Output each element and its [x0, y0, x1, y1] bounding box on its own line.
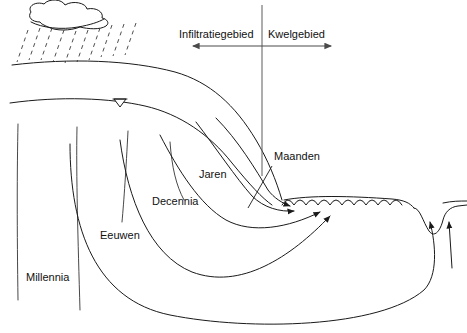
label-kwelgebied: Kwelgebied	[268, 28, 325, 40]
flowpath-maanden	[216, 118, 290, 206]
label-jaren: Jaren	[199, 168, 227, 180]
water-table-line	[10, 99, 272, 205]
drainage-ditch	[414, 201, 467, 234]
ground-surface-line	[12, 61, 282, 200]
flowpath-jaren	[196, 122, 294, 211]
label-infiltratiegebied: Infiltratiegebied	[179, 28, 254, 40]
seepage-arrows	[449, 222, 452, 268]
scalloped-seepage-surface	[282, 197, 414, 209]
diagram-canvas: Infiltratiegebied Kwelgebied Maanden Jar…	[0, 0, 467, 333]
rain-cloud-group	[30, 0, 108, 30]
water-table-triangle	[113, 99, 127, 107]
hydrogeology-diagram: Infiltratiegebied Kwelgebied Maanden Jar…	[0, 0, 467, 333]
precipitation-dashes	[16, 23, 150, 67]
label-decennia: Decennia	[152, 195, 199, 207]
label-maanden: Maanden	[274, 150, 320, 162]
label-millennia: Millennia	[26, 271, 70, 283]
ditch-bank-line	[443, 201, 467, 203]
label-eeuwen: Eeuwen	[100, 229, 140, 241]
